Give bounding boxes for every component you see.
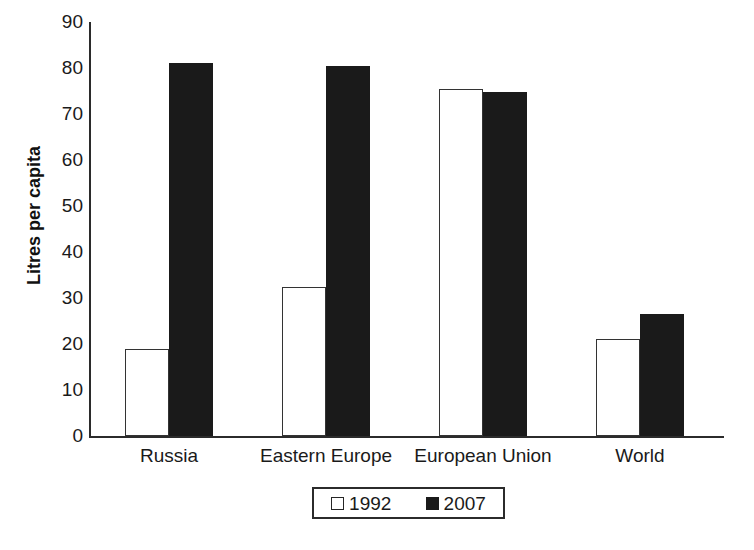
legend-label-2007: 2007: [444, 494, 486, 513]
bar-world-1992: [596, 339, 640, 436]
x-axis-category-label: World: [570, 444, 710, 468]
legend-item-2007: 2007: [426, 494, 486, 513]
x-axis-category-label: Russia: [99, 444, 239, 468]
legend-label-1992: 1992: [349, 494, 391, 513]
bar-european-union-2007: [483, 92, 527, 436]
legend-item-1992: 1992: [331, 494, 391, 513]
bar-eastern-europe-2007: [326, 66, 370, 436]
bar-russia-1992: [125, 349, 169, 436]
open-square-swatch-icon: [331, 497, 344, 510]
x-axis-category-label: European Union: [413, 444, 553, 468]
bar-chart: Litres per capita 9080706050403020100 Ru…: [0, 0, 754, 550]
filled-square-swatch-icon: [426, 497, 439, 510]
bars-layer: RussiaEastern EuropeEuropean UnionWorld: [0, 0, 754, 550]
bar-european-union-1992: [439, 89, 483, 436]
bar-world-2007: [640, 314, 684, 436]
chart-legend: 1992 2007: [312, 487, 505, 519]
bar-russia-2007: [169, 63, 213, 436]
bar-eastern-europe-1992: [282, 287, 326, 437]
x-axis-category-label: Eastern Europe: [256, 444, 396, 468]
